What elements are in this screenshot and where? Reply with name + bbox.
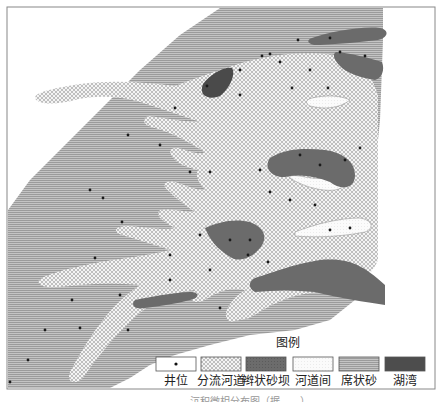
legend-swatch-bay (385, 357, 425, 371)
legend-swatch-channel (201, 357, 241, 371)
legend-label-bay: 湖湾 (375, 371, 435, 388)
legend-title: 图例 (276, 333, 300, 350)
facies-map (0, 0, 441, 402)
legend-swatch-bar (246, 357, 286, 371)
well-dot-icon (174, 362, 177, 365)
figure-caption: ……沉积微相分布图（据……） (120, 395, 360, 402)
legend-swatch-interchannel (293, 357, 333, 371)
legend-swatch-sheet-sand (339, 357, 379, 371)
